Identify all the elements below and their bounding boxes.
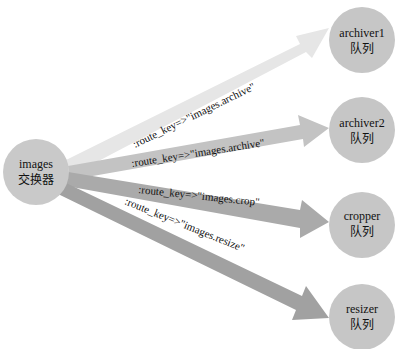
queue-name: archiver1 xyxy=(339,26,384,40)
queue-node-archiver2[interactable]: archiver2 队列 xyxy=(329,97,395,163)
exchange-node-images[interactable]: images 交换器 xyxy=(3,139,69,205)
queue-type-label: 队列 xyxy=(350,224,374,239)
queue-type-label: 队列 xyxy=(350,41,374,56)
queue-node-archiver1[interactable]: archiver1 队列 xyxy=(329,7,395,73)
queue-node-resizer[interactable]: resizer 队列 xyxy=(329,284,395,349)
queue-type-label: 队列 xyxy=(350,317,374,332)
exchange-name: images xyxy=(19,157,53,171)
binding-diagram: :route_key=>"images.archive" :route_key=… xyxy=(0,0,407,349)
queue-node-cropper[interactable]: cropper 队列 xyxy=(329,192,395,258)
queue-name: archiver2 xyxy=(339,116,384,130)
queue-name: cropper xyxy=(344,209,381,223)
queue-name: resizer xyxy=(346,302,378,316)
queue-type-label: 队列 xyxy=(350,131,374,146)
exchange-type-label: 交换器 xyxy=(18,172,54,187)
